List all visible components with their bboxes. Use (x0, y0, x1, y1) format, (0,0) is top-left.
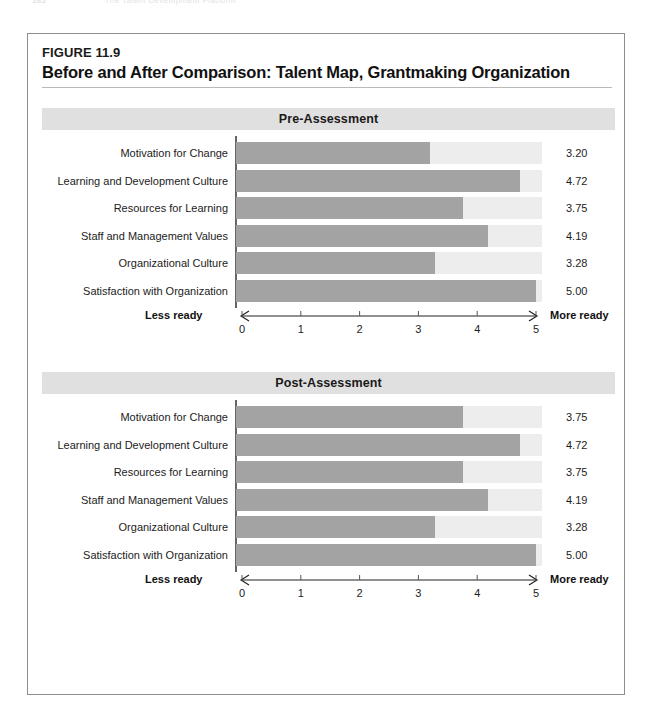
bar-category-label: Staff and Management Values (42, 489, 228, 511)
bar-value-label: 4.72 (566, 170, 587, 192)
bar-track (236, 489, 542, 511)
bar-fill (236, 406, 463, 428)
bar-category-label: Learning and Development Culture (42, 434, 228, 456)
section-band-post: Post-Assessment (42, 372, 615, 394)
bar-category-label: Satisfaction with Organization (42, 280, 228, 302)
section-band-label-pre: Pre-Assessment (279, 112, 378, 126)
bar-track (236, 406, 542, 428)
axis-line-post (236, 574, 542, 588)
figure-frame: FIGURE 11.9 Before and After Comparison:… (27, 33, 625, 695)
bar-value-label: 4.19 (566, 489, 587, 511)
axis-caption-right-pre: More ready (550, 309, 609, 321)
axis-tick-label: 2 (357, 587, 363, 599)
title-rule (42, 87, 612, 88)
bar-value-label: 3.20 (566, 142, 587, 164)
running-head-title: The Talent Development Platform (105, 0, 236, 5)
bar-fill (236, 461, 463, 483)
axis-tick-label: 4 (474, 587, 480, 599)
bar-fill (236, 225, 488, 247)
axis-pre: Less ready More ready (42, 310, 615, 344)
bar-category-label: Organizational Culture (42, 516, 228, 538)
bar-track (236, 252, 542, 274)
axis-tick-label: 0 (239, 323, 245, 335)
bar-track (236, 170, 542, 192)
bar-fill (236, 489, 488, 511)
bar-fill (236, 170, 520, 192)
bar-track (236, 225, 542, 247)
axis-tick-label: 1 (298, 587, 304, 599)
bar-row: Resources for Learning3.75 (42, 461, 615, 483)
section-band-label-post: Post-Assessment (275, 376, 381, 390)
bar-track (236, 434, 542, 456)
axis-tick-label: 3 (415, 323, 421, 335)
bar-value-label: 4.19 (566, 225, 587, 247)
page-folio: 162 (32, 0, 47, 5)
bar-track (236, 516, 542, 538)
bar-value-label: 4.72 (566, 434, 587, 456)
chart-pre-assessment: Pre-Assessment Motivation for Change3.20… (42, 108, 615, 346)
bar-category-label: Satisfaction with Organization (42, 544, 228, 566)
axis-caption-right-post: More ready (550, 573, 609, 585)
bar-row: Organizational Culture3.28 (42, 516, 615, 538)
figure-header: FIGURE 11.9 Before and After Comparison:… (42, 45, 612, 88)
chart-post-assessment: Post-Assessment Motivation for Change3.7… (42, 372, 615, 610)
bar-track (236, 280, 542, 302)
bar-category-label: Staff and Management Values (42, 225, 228, 247)
bar-row: Learning and Development Culture4.72 (42, 434, 615, 456)
bar-fill (236, 434, 520, 456)
bar-row: Resources for Learning3.75 (42, 197, 615, 219)
bar-row: Motivation for Change3.75 (42, 406, 615, 428)
axis-caption-left-pre: Less ready (145, 309, 202, 321)
bar-track (236, 142, 542, 164)
section-band-pre: Pre-Assessment (42, 108, 615, 130)
bar-row: Motivation for Change3.20 (42, 142, 615, 164)
axis-tick-label: 2 (357, 323, 363, 335)
figure-number: FIGURE 11.9 (42, 45, 612, 60)
axis-tick-label: 1 (298, 323, 304, 335)
axis-tick-label: 4 (474, 323, 480, 335)
bar-row: Satisfaction with Organization5.00 (42, 544, 615, 566)
axis-tick-label: 5 (533, 323, 539, 335)
axis-post: Less ready More ready (42, 574, 615, 608)
bar-row: Satisfaction with Organization5.00 (42, 280, 615, 302)
bar-category-label: Learning and Development Culture (42, 170, 228, 192)
bar-category-label: Resources for Learning (42, 461, 228, 483)
bar-value-label: 5.00 (566, 544, 587, 566)
bar-category-label: Resources for Learning (42, 197, 228, 219)
bar-fill (236, 544, 536, 566)
page-running-head: 162The Talent Development Platform (32, 0, 452, 5)
bar-value-label: 3.28 (566, 516, 587, 538)
bar-fill (236, 280, 536, 302)
axis-caption-left-post: Less ready (145, 573, 202, 585)
bar-category-label: Organizational Culture (42, 252, 228, 274)
bar-fill (236, 142, 430, 164)
bar-fill (236, 516, 435, 538)
axis-tick-label: 3 (415, 587, 421, 599)
bar-value-label: 3.75 (566, 197, 587, 219)
figure-title: Before and After Comparison: Talent Map,… (42, 62, 612, 82)
bar-value-label: 5.00 (566, 280, 587, 302)
bar-row: Staff and Management Values4.19 (42, 225, 615, 247)
bar-row: Staff and Management Values4.19 (42, 489, 615, 511)
bar-row: Organizational Culture3.28 (42, 252, 615, 274)
bar-category-label: Motivation for Change (42, 406, 228, 428)
plot-area-post: Motivation for Change3.75Learning and De… (42, 406, 615, 610)
bar-row: Learning and Development Culture4.72 (42, 170, 615, 192)
bar-value-label: 3.28 (566, 252, 587, 274)
plot-area-pre: Motivation for Change3.20Learning and De… (42, 142, 615, 346)
bar-value-label: 3.75 (566, 406, 587, 428)
bar-category-label: Motivation for Change (42, 142, 228, 164)
bar-fill (236, 197, 463, 219)
bar-fill (236, 252, 435, 274)
axis-tick-label: 0 (239, 587, 245, 599)
axis-line-pre (236, 310, 542, 324)
bar-track (236, 544, 542, 566)
bar-track (236, 461, 542, 483)
bar-track (236, 197, 542, 219)
bar-value-label: 3.75 (566, 461, 587, 483)
axis-tick-label: 5 (533, 587, 539, 599)
